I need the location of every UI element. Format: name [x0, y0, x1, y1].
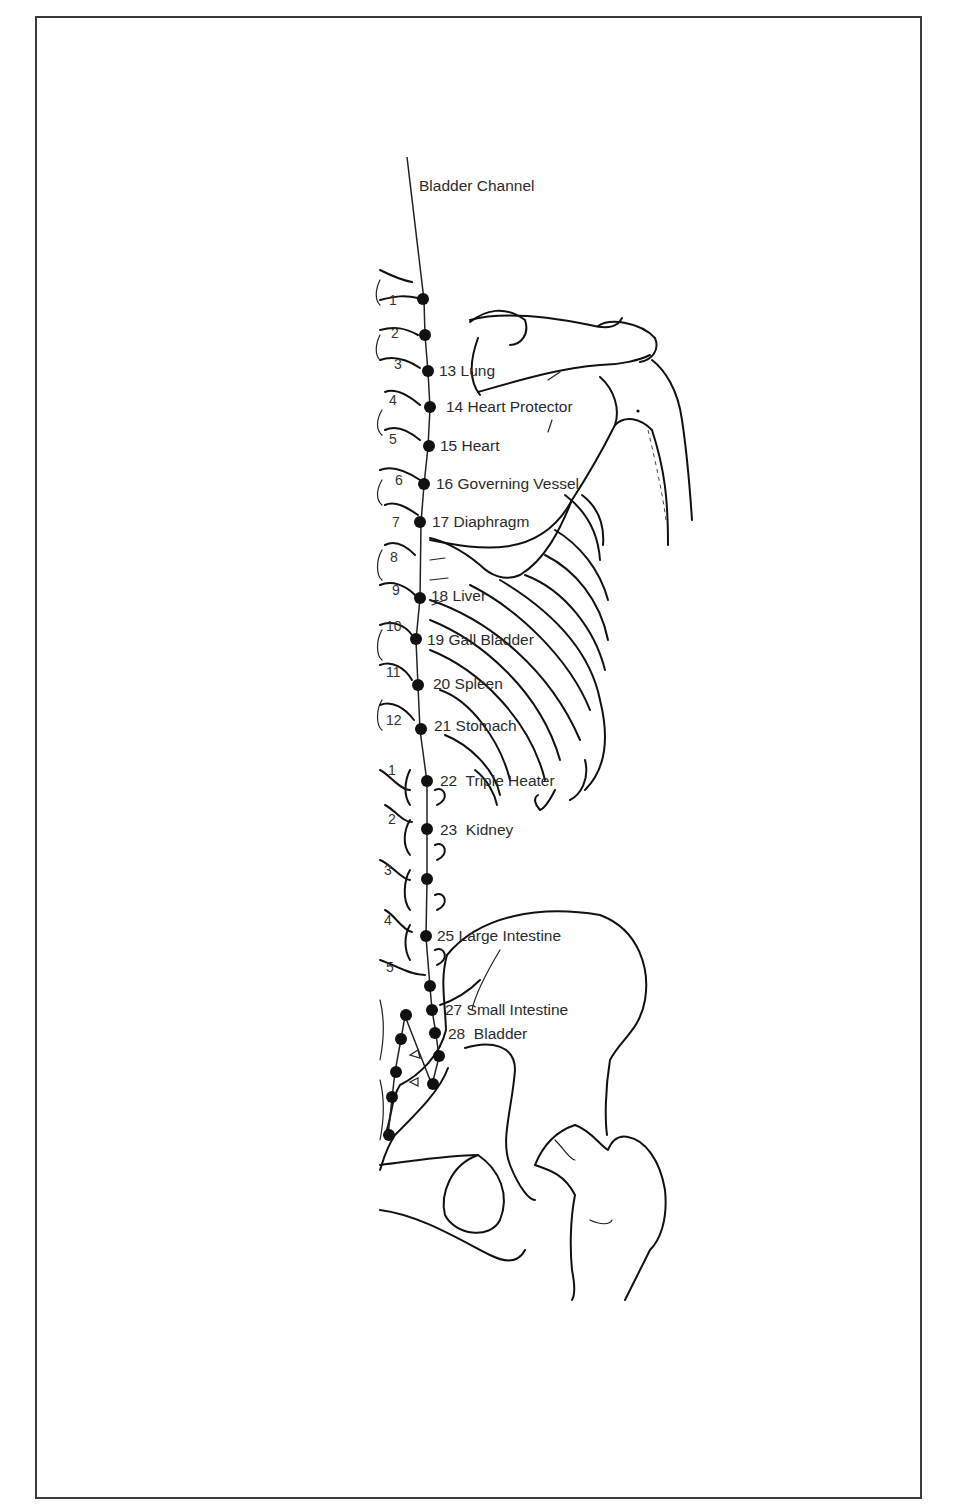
vertebra-label-t1: 1 [389, 292, 397, 308]
vertebra-label-l1: 1 [388, 762, 396, 778]
acupoint[interactable] [395, 1033, 407, 1045]
acupoint-18[interactable] [414, 592, 426, 604]
point-label-20: 20 Spleen [433, 675, 503, 692]
point-label-21: 21 Stomach [434, 717, 517, 734]
acupoint[interactable] [417, 293, 429, 305]
vertebra-label-l3: 3 [384, 862, 392, 878]
acupoint-23[interactable] [421, 823, 433, 835]
point-label-25: 25 Large Intestine [437, 927, 561, 944]
vertebra-label-t9: 9 [392, 582, 400, 598]
acupoint[interactable] [424, 980, 436, 992]
point-label-22: 22 Triple Heater [440, 772, 555, 789]
acupoint-16[interactable] [418, 478, 430, 490]
point-label-16: 16 Governing Vessel [436, 475, 579, 492]
acupoint-20[interactable] [412, 679, 424, 691]
acupoint-28[interactable] [429, 1027, 441, 1039]
lumbar-vertebra-labels: 1 2 3 4 5 [384, 762, 396, 975]
point-label-28: 28 Bladder [448, 1025, 527, 1042]
point-label-19: 19 Gall Bladder [427, 631, 534, 648]
bladder-channel-diagram: Bladder Channel 1 2 3 4 5 6 7 8 9 10 11 … [0, 0, 955, 1509]
acupoint[interactable] [400, 1009, 412, 1021]
pelvis-and-femur [380, 911, 666, 1300]
acupoint-14[interactable] [424, 401, 436, 413]
point-label-23: 23 Kidney [440, 821, 513, 838]
acupoint[interactable] [433, 1050, 445, 1062]
point-label-27: 27 Small Intestine [445, 1001, 568, 1018]
acupoint-22[interactable] [421, 775, 433, 787]
vertebra-label-t5: 5 [389, 431, 397, 447]
acupoint-17[interactable] [414, 516, 426, 528]
vertebra-label-t11: 11 [386, 664, 401, 680]
point-label-15: 15 Heart [440, 437, 500, 454]
vertebra-label-l4: 4 [384, 912, 392, 928]
acupoint[interactable] [386, 1091, 398, 1103]
point-label-18: 18 Liver [431, 587, 486, 604]
vertebra-label-t12: 12 [386, 712, 402, 728]
ribs [430, 495, 608, 810]
vertebra-label-l5: 5 [386, 959, 394, 975]
acupoint[interactable] [383, 1129, 395, 1141]
acupoint-21[interactable] [415, 723, 427, 735]
acupoint-27[interactable] [426, 1004, 438, 1016]
acupoint[interactable] [390, 1066, 402, 1078]
shoulder-dot-icon [636, 409, 639, 412]
acupoint-13[interactable] [422, 365, 434, 377]
acupoint-25[interactable] [420, 930, 432, 942]
acupoint[interactable] [427, 1078, 439, 1090]
acupoint-15[interactable] [423, 440, 435, 452]
acupoint-19[interactable] [410, 633, 422, 645]
acupoint[interactable] [419, 329, 431, 341]
point-label-17: 17 Diaphragm [432, 513, 529, 530]
point-label-13: 13 Lung [439, 362, 495, 379]
vertebra-label-l2: 2 [388, 811, 396, 827]
vertebra-label-t3: 3 [394, 356, 402, 372]
point-label-14: 14 Heart Protector [446, 398, 573, 415]
vertebra-label-t4: 4 [389, 392, 397, 408]
vertebra-label-t7: 7 [392, 514, 400, 530]
vertebra-label-t6: 6 [395, 472, 403, 488]
vertebra-label-t8: 8 [390, 549, 398, 565]
vertebra-label-t2: 2 [391, 325, 399, 341]
channel-title: Bladder Channel [419, 177, 534, 194]
vertebra-label-t10: 10 [386, 618, 402, 634]
acupoint[interactable] [421, 873, 433, 885]
